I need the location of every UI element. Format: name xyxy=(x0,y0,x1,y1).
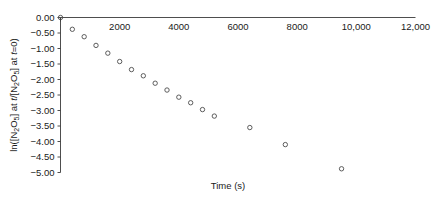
x-tick-label: 6000 xyxy=(227,21,248,32)
y-tick-label: −5.00 xyxy=(30,167,54,178)
y-axis-tick-labels: 0.00−0.50−1.00−1.50−2.00−2.50−3.00−3.50−… xyxy=(30,12,54,178)
x-axis-title: Time (s) xyxy=(211,180,245,191)
x-tick-label: 2000 xyxy=(109,21,130,32)
scatter-plot: 0.00−0.50−1.00−1.50−2.00−2.50−3.00−3.50−… xyxy=(0,0,432,202)
data-point xyxy=(188,101,192,105)
y-axis-title-text: ln([N2O5] at t/[N2O5] at t=0) xyxy=(8,38,20,152)
data-point xyxy=(177,95,181,99)
y-tick-label: −4.50 xyxy=(30,151,54,162)
data-point xyxy=(212,114,216,118)
y-tick-label: −0.50 xyxy=(30,27,54,38)
data-point-series xyxy=(58,15,343,171)
x-tick-label: 4000 xyxy=(168,21,189,32)
data-point xyxy=(129,67,133,71)
y-axis-title: ln([N2O5] at t/[N2O5] at t=0) xyxy=(8,38,20,152)
x-tick-label: 10,000 xyxy=(342,21,371,32)
data-point xyxy=(283,142,287,146)
y-tick-label: −2.00 xyxy=(30,74,54,85)
data-point xyxy=(165,88,169,92)
x-axis-tick-labels: 200040006000800010,00012,000 xyxy=(109,21,430,32)
data-point xyxy=(153,81,157,85)
x-tick-label: 8000 xyxy=(287,21,308,32)
y-tick-label: −1.00 xyxy=(30,43,54,54)
data-point xyxy=(82,35,86,39)
y-tick-label: −4.00 xyxy=(30,136,54,147)
data-point xyxy=(141,74,145,78)
data-point xyxy=(94,43,98,47)
y-tick-label: −3.50 xyxy=(30,120,54,131)
chart-figure: 0.00−0.50−1.00−1.50−2.00−2.50−3.00−3.50−… xyxy=(0,0,432,202)
data-point xyxy=(248,125,252,129)
data-point xyxy=(117,59,121,63)
data-point xyxy=(70,27,74,31)
y-tick-label: −2.50 xyxy=(30,89,54,100)
y-tick-label: −3.00 xyxy=(30,105,54,116)
data-point xyxy=(200,107,204,111)
data-point xyxy=(106,51,110,55)
data-point xyxy=(339,167,343,171)
y-tick-label: −1.50 xyxy=(30,58,54,69)
y-tick-label: 0.00 xyxy=(36,12,55,23)
x-tick-label: 12,000 xyxy=(401,21,430,32)
